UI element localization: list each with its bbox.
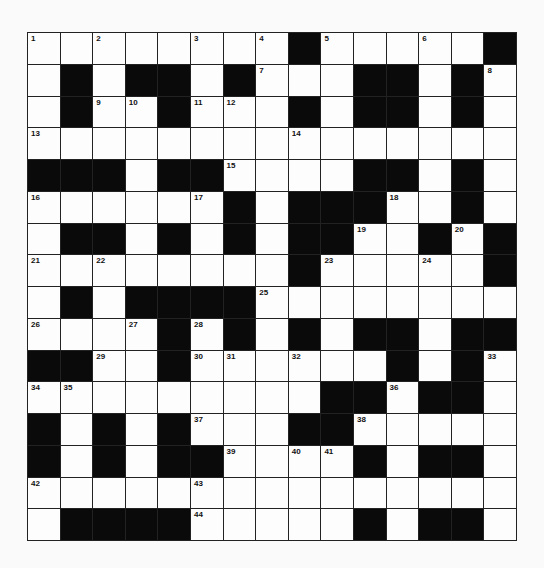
answer-cell[interactable]: [354, 478, 386, 509]
answer-cell[interactable]: [126, 128, 158, 159]
answer-cell[interactable]: [191, 255, 223, 286]
answer-cell[interactable]: [93, 319, 125, 350]
answer-cell[interactable]: 31: [224, 351, 256, 382]
answer-cell[interactable]: [321, 319, 353, 350]
answer-cell[interactable]: [387, 128, 419, 159]
answer-cell[interactable]: [256, 224, 288, 255]
answer-cell[interactable]: 17: [191, 192, 223, 223]
answer-cell[interactable]: [126, 224, 158, 255]
answer-cell[interactable]: 12: [224, 97, 256, 128]
answer-cell[interactable]: [387, 224, 419, 255]
answer-cell[interactable]: [387, 446, 419, 477]
answer-cell[interactable]: [484, 160, 516, 191]
answer-cell[interactable]: [387, 509, 419, 540]
answer-cell[interactable]: [419, 414, 451, 445]
answer-cell[interactable]: [126, 351, 158, 382]
answer-cell[interactable]: [484, 128, 516, 159]
answer-cell[interactable]: [191, 224, 223, 255]
answer-cell[interactable]: [126, 414, 158, 445]
answer-cell[interactable]: [61, 478, 93, 509]
answer-cell[interactable]: [256, 319, 288, 350]
answer-cell[interactable]: 21: [28, 255, 60, 286]
answer-cell[interactable]: [256, 160, 288, 191]
answer-cell[interactable]: [126, 478, 158, 509]
answer-cell[interactable]: 4: [256, 33, 288, 64]
answer-cell[interactable]: [126, 446, 158, 477]
answer-cell[interactable]: 30: [191, 351, 223, 382]
answer-cell[interactable]: [354, 33, 386, 64]
answer-cell[interactable]: [224, 255, 256, 286]
answer-cell[interactable]: [452, 33, 484, 64]
answer-cell[interactable]: 10: [126, 97, 158, 128]
answer-cell[interactable]: [28, 97, 60, 128]
answer-cell[interactable]: [256, 414, 288, 445]
answer-cell[interactable]: [484, 382, 516, 413]
answer-cell[interactable]: 44: [191, 509, 223, 540]
answer-cell[interactable]: [484, 97, 516, 128]
answer-cell[interactable]: 5: [321, 33, 353, 64]
answer-cell[interactable]: [289, 160, 321, 191]
answer-cell[interactable]: [419, 478, 451, 509]
answer-cell[interactable]: [191, 65, 223, 96]
answer-cell[interactable]: [387, 33, 419, 64]
answer-cell[interactable]: [126, 33, 158, 64]
answer-cell[interactable]: 39: [224, 446, 256, 477]
answer-cell[interactable]: [126, 192, 158, 223]
answer-cell[interactable]: [484, 478, 516, 509]
answer-cell[interactable]: [61, 319, 93, 350]
answer-cell[interactable]: [224, 509, 256, 540]
answer-cell[interactable]: 32: [289, 351, 321, 382]
answer-cell[interactable]: [289, 382, 321, 413]
answer-cell[interactable]: [321, 160, 353, 191]
answer-cell[interactable]: [419, 65, 451, 96]
answer-cell[interactable]: [93, 65, 125, 96]
answer-cell[interactable]: [256, 509, 288, 540]
answer-cell[interactable]: 13: [28, 128, 60, 159]
answer-cell[interactable]: 8: [484, 65, 516, 96]
answer-cell[interactable]: [191, 382, 223, 413]
answer-cell[interactable]: [354, 287, 386, 318]
answer-cell[interactable]: 3: [191, 33, 223, 64]
answer-cell[interactable]: 36: [387, 382, 419, 413]
answer-cell[interactable]: 22: [93, 255, 125, 286]
answer-cell[interactable]: [61, 192, 93, 223]
answer-cell[interactable]: 29: [93, 351, 125, 382]
answer-cell[interactable]: [191, 128, 223, 159]
answer-cell[interactable]: [387, 478, 419, 509]
answer-cell[interactable]: [28, 65, 60, 96]
answer-cell[interactable]: [321, 65, 353, 96]
answer-cell[interactable]: 20: [452, 224, 484, 255]
answer-cell[interactable]: 16: [28, 192, 60, 223]
answer-cell[interactable]: [61, 128, 93, 159]
answer-cell[interactable]: [224, 414, 256, 445]
answer-cell[interactable]: [484, 509, 516, 540]
answer-cell[interactable]: [484, 414, 516, 445]
answer-cell[interactable]: [387, 287, 419, 318]
answer-cell[interactable]: 1: [28, 33, 60, 64]
answer-cell[interactable]: [452, 414, 484, 445]
answer-cell[interactable]: [61, 255, 93, 286]
answer-cell[interactable]: [158, 478, 190, 509]
answer-cell[interactable]: 37: [191, 414, 223, 445]
answer-cell[interactable]: [93, 478, 125, 509]
answer-cell[interactable]: [224, 478, 256, 509]
answer-cell[interactable]: 9: [93, 97, 125, 128]
answer-cell[interactable]: 43: [191, 478, 223, 509]
answer-cell[interactable]: [321, 509, 353, 540]
answer-cell[interactable]: [321, 287, 353, 318]
answer-cell[interactable]: [419, 319, 451, 350]
answer-cell[interactable]: 41: [321, 446, 353, 477]
answer-cell[interactable]: 35: [61, 382, 93, 413]
answer-cell[interactable]: [256, 446, 288, 477]
answer-cell[interactable]: [289, 65, 321, 96]
answer-cell[interactable]: [93, 128, 125, 159]
answer-cell[interactable]: 25: [256, 287, 288, 318]
answer-cell[interactable]: [256, 255, 288, 286]
answer-cell[interactable]: [289, 509, 321, 540]
answer-cell[interactable]: 24: [419, 255, 451, 286]
answer-cell[interactable]: [158, 33, 190, 64]
answer-cell[interactable]: [484, 446, 516, 477]
answer-cell[interactable]: 11: [191, 97, 223, 128]
answer-cell[interactable]: [256, 97, 288, 128]
answer-cell[interactable]: 14: [289, 128, 321, 159]
